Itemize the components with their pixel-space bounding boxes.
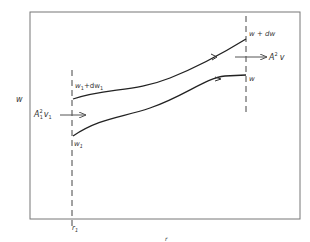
upper-right-label: w + dw <box>249 30 275 38</box>
upper-left-label: w1+dw1 <box>75 82 103 91</box>
x-axis-label: r <box>165 235 168 242</box>
lower-right-label: w <box>249 75 255 83</box>
inflow-label: A21v1 <box>33 108 52 120</box>
upper-streamline <box>73 39 246 99</box>
lower-left-label: w1 <box>74 140 83 149</box>
y-axis-label: w <box>16 95 23 104</box>
left-boundary-label: r1 <box>72 224 78 233</box>
lower-curve-arrow-icon <box>215 77 221 81</box>
streamtube-diagram: w r1 r w1+dw1 w1 A21v1 w + dw w A2v <box>0 0 310 242</box>
outflow-label: A2v <box>268 51 285 62</box>
